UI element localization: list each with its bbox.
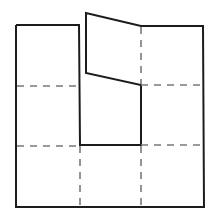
fold-lines	[17, 27, 203, 206]
outer-outline	[16, 13, 204, 207]
net-diagram	[0, 0, 215, 221]
